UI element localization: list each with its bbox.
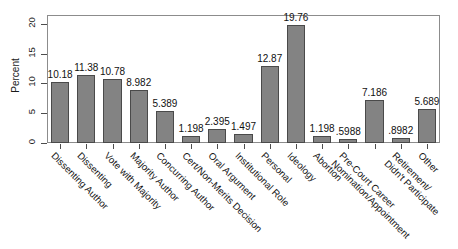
- bar[interactable]: [392, 138, 410, 143]
- bar-value-label: 10.78: [93, 66, 133, 77]
- y-tick-label: 5: [24, 106, 38, 117]
- bar-value-label: 1.497: [224, 121, 264, 132]
- x-tick-mark: [113, 144, 114, 149]
- bar-value-label: 5.689: [407, 96, 447, 107]
- y-tick-label-text: 0: [26, 135, 37, 149]
- y-tick-mark: [41, 143, 47, 144]
- x-tick-mark: [191, 144, 192, 149]
- y-tick-label: 15: [24, 47, 38, 58]
- y-tick-label: 20: [24, 17, 38, 28]
- x-tick-mark: [401, 144, 402, 149]
- y-axis-title: Percent: [6, 0, 24, 150]
- bar[interactable]: [234, 134, 252, 143]
- bar-value-label: 19.76: [276, 12, 316, 23]
- x-tick-mark: [60, 144, 61, 149]
- x-tick-mark: [165, 144, 166, 149]
- bar[interactable]: [103, 79, 121, 143]
- y-tick-label: 10: [24, 76, 38, 87]
- y-tick-label: 0: [24, 136, 38, 147]
- x-tick-mark: [427, 144, 428, 149]
- x-tick-mark: [244, 144, 245, 149]
- bar-chart-figure: Percent 05101520 Dissenting AuthorDissen…: [0, 0, 458, 249]
- x-tick-mark: [348, 144, 349, 149]
- bar-value-label: 7.186: [355, 87, 395, 98]
- y-tick-label-text: 5: [26, 105, 37, 119]
- bar-value-label: .5988: [328, 126, 368, 137]
- y-tick-label-text: 20: [26, 15, 37, 29]
- bar[interactable]: [339, 139, 357, 143]
- x-tick-mark: [86, 144, 87, 149]
- bar-value-label: 8.982: [119, 77, 159, 88]
- y-tick-label-text: 10: [26, 75, 37, 89]
- bar[interactable]: [77, 75, 95, 143]
- bar-value-label: 12.87: [250, 53, 290, 64]
- x-tick-mark: [375, 144, 376, 149]
- y-axis-title-text: Percent: [10, 58, 21, 92]
- x-tick-mark: [270, 144, 271, 149]
- bar-value-label: .8982: [381, 125, 421, 136]
- x-tick-mark: [217, 144, 218, 149]
- x-tick-mark: [322, 144, 323, 149]
- x-tick-mark: [139, 144, 140, 149]
- x-tick-mark: [296, 144, 297, 149]
- y-tick-label-text: 15: [26, 45, 37, 59]
- bar[interactable]: [182, 136, 200, 143]
- bar[interactable]: [51, 82, 69, 143]
- bar-value-label: 5.389: [145, 98, 185, 109]
